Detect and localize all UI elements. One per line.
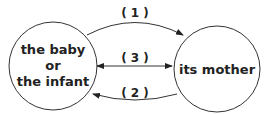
edge-3-label: ( 3 ) [121,51,149,65]
edge-1-label: ( 1 ) [121,6,149,20]
node-baby-line-3: the infant [17,74,89,89]
edge-1-arrow [87,23,183,36]
relationship-diagram: the baby or the infant its mother ( 1 ) … [0,0,267,114]
node-baby-line-1: the baby [21,42,86,57]
edge-2-label: ( 2 ) [121,86,149,100]
node-baby-line-2: or [45,58,61,73]
node-mother-label: its mother [179,62,256,77]
